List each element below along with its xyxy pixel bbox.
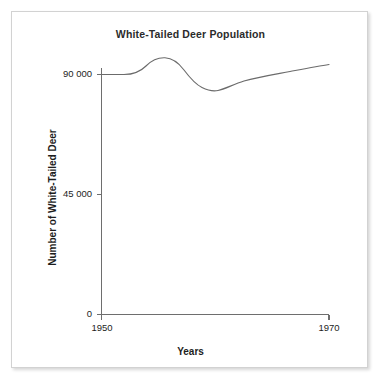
deer-population-line [102, 58, 330, 91]
x-tick-label-1970: 1970 [308, 322, 350, 333]
figure-root: White-Tailed Deer Population 90 000 45 0… [0, 0, 383, 383]
x-axis-title: Years [12, 346, 369, 357]
x-tick-label-1950: 1950 [81, 322, 123, 333]
chart-card: White-Tailed Deer Population 90 000 45 0… [11, 11, 368, 368]
y-tick-label-0: 0 [40, 308, 92, 319]
y-tick-label-90000: 90 000 [40, 68, 92, 79]
y-axis-title: Number of White-Tailed Deer [47, 98, 58, 298]
